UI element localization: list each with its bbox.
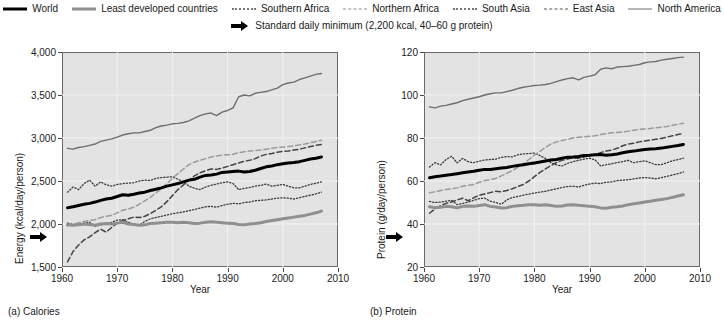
legend-label: Northern Africa [372, 3, 439, 14]
legend-label: East Asia [573, 3, 615, 14]
y-tick-mark [58, 138, 62, 139]
panel-caption-calories: (a) Calories [8, 306, 60, 317]
x-tick-mark [283, 268, 284, 272]
y-tick-label: 1,500 [0, 262, 56, 273]
standard-minimum-axis-arrow-icon [386, 231, 404, 242]
legend-label: Southern Africa [261, 3, 329, 14]
legend-swatch-dashed-dark-icon [544, 4, 568, 14]
x-tick-label: 2000 [272, 273, 294, 284]
x-tick-label: 1980 [523, 273, 545, 284]
y-tick-mark [420, 224, 424, 225]
x-tick-label: 1960 [51, 273, 73, 284]
y-tick-label: 3,000 [0, 133, 56, 144]
legend-swatch-solid-black-icon [3, 4, 27, 14]
x-tick-label: 2010 [327, 273, 349, 284]
panel-calories: Energy (kcal/day/person) 1,5002,0002,500… [0, 34, 362, 325]
x-tick-mark [479, 268, 480, 272]
legend-item-northern-africa: Northern Africa [336, 3, 446, 14]
y-tick-mark [420, 52, 424, 53]
legend-item-southern-africa: Southern Africa [225, 3, 336, 14]
x-tick-label: 1970 [106, 273, 128, 284]
x-tick-mark [534, 268, 535, 272]
legend-annotation-row: Standard daily minimum (2,200 kcal, 40–6… [0, 17, 724, 34]
standard-minimum-axis-arrow-icon [30, 231, 48, 242]
y-tick-label: 40 [362, 219, 418, 230]
right-arrow-icon [231, 20, 249, 31]
x-tick-mark [700, 268, 701, 272]
x-tick-mark [590, 268, 591, 272]
y-tick-mark [420, 95, 424, 96]
y-tick-label: 60 [362, 176, 418, 187]
legend-swatch-dotted-icon [453, 4, 477, 14]
legend-item-least-developed-countries: Least developed countries [65, 3, 225, 14]
y-tick-label: 20 [362, 262, 418, 273]
chart-legend: World Least developed countries Southern… [0, 0, 724, 34]
y-tick-mark [58, 95, 62, 96]
plot-area-protein [424, 52, 700, 267]
y-tick-label: 2,500 [0, 176, 56, 187]
panel-protein: Protein (g/day/person) 20406080100120 19… [362, 34, 724, 325]
x-tick-label: 2000 [634, 273, 656, 284]
x-axis-label: Year [552, 284, 572, 295]
y-tick-label: 100 [362, 90, 418, 101]
x-tick-mark [62, 268, 63, 272]
x-tick-label: 1970 [468, 273, 490, 284]
legend-series-row: World Least developed countries Southern… [0, 0, 724, 17]
plot-svg-calories [62, 52, 338, 267]
legend-item-north-america: North America [621, 3, 724, 14]
x-axis-label: Year [190, 284, 210, 295]
x-tick-label: 1980 [161, 273, 183, 284]
y-tick-mark [58, 224, 62, 225]
x-tick-mark [424, 268, 425, 272]
x-tick-mark [338, 268, 339, 272]
y-tick-label: 4,000 [0, 47, 56, 58]
y-tick-label: 120 [362, 47, 418, 58]
y-tick-mark [58, 181, 62, 182]
x-tick-label: 1960 [413, 273, 435, 284]
panel-caption-protein: (b) Protein [370, 306, 417, 317]
legend-item-south-asia: South Asia [446, 3, 537, 14]
x-tick-label: 2010 [689, 273, 711, 284]
y-tick-mark [58, 52, 62, 53]
legend-swatch-solid-gray-icon [72, 4, 96, 14]
legend-swatch-solid-thin-icon [628, 4, 652, 14]
legend-label: World [32, 3, 58, 14]
legend-label: South Asia [482, 3, 530, 14]
x-tick-mark [228, 268, 229, 272]
x-tick-mark [172, 268, 173, 272]
y-axis-label: Energy (kcal/day/person) [14, 153, 25, 264]
y-tick-label: 2,000 [0, 219, 56, 230]
legend-swatch-dashed-icon [343, 4, 367, 14]
y-tick-mark [420, 181, 424, 182]
plot-svg-protein [424, 52, 700, 267]
legend-item-east-asia: East Asia [537, 3, 622, 14]
legend-label: Least developed countries [101, 3, 218, 14]
plot-area-calories [62, 52, 338, 267]
x-tick-mark [117, 268, 118, 272]
legend-item-world: World [0, 3, 65, 14]
y-tick-label: 3,500 [0, 90, 56, 101]
x-tick-label: 1990 [578, 273, 600, 284]
legend-swatch-dotted-icon [232, 4, 256, 14]
x-tick-label: 1990 [216, 273, 238, 284]
x-tick-mark [645, 268, 646, 272]
y-tick-label: 80 [362, 133, 418, 144]
legend-label: North America [657, 3, 720, 14]
y-tick-mark [420, 138, 424, 139]
legend-annotation-label: Standard daily minimum (2,200 kcal, 40–6… [255, 20, 492, 31]
